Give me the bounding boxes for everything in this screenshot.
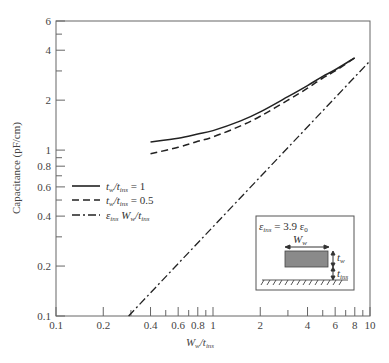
y-axis-ticks: 0.10.20.40.60.81246: [37, 15, 65, 322]
y-tick-label: 2: [46, 94, 52, 106]
x-tick-label: 8: [352, 319, 358, 331]
legend-item-dashdot: εins Ww/tins: [72, 209, 150, 223]
y-tick-label: 0.8: [37, 160, 51, 172]
series-line-solid: [151, 58, 355, 142]
y-tick-label: 4: [46, 44, 52, 56]
x-tick-label: 1: [210, 319, 216, 331]
wire-rectangle: [285, 251, 328, 267]
capacitance-chart: 0.10.20.40.60.81246810 0.10.20.40.60.812…: [0, 0, 389, 363]
x-tick-label: 0.1: [49, 319, 63, 331]
y-tick-label: 0.2: [37, 260, 51, 272]
y-axis-title: Capacitance (pF/cm): [10, 122, 23, 214]
x-tick-label: 6: [332, 319, 338, 331]
x-tick-label: 0.8: [191, 319, 205, 331]
y-tick-label: 6: [46, 15, 52, 27]
x-tick-label: 0.6: [171, 319, 185, 331]
x-axis-ticks: 0.10.20.40.60.81246810: [49, 307, 376, 331]
legend-item-solid: tw/tins = 1: [72, 180, 145, 194]
y-tick-label: 0.1: [37, 310, 51, 322]
legend-label-dashdot: εins Ww/tins: [106, 209, 150, 223]
x-tick-label: 4: [305, 319, 311, 331]
y-tick-label: 0.6: [37, 181, 51, 193]
series-line-dashed: [151, 58, 355, 154]
y-tick-label: 0.4: [37, 210, 51, 222]
inset-cross-section: εins = 3.9 ε0 Ww tw tins: [256, 216, 354, 290]
x-tick-label: 2: [258, 319, 264, 331]
x-tick-label: 0.4: [144, 319, 158, 331]
legend: tw/tins = 1 tw/tins = 0.5 εins Ww/tins: [72, 180, 154, 223]
legend-label-solid: tw/tins = 1: [106, 180, 145, 194]
x-axis-title: Ww/tins: [186, 336, 214, 350]
x-tick-label: 10: [365, 319, 377, 331]
legend-item-dashed: tw/tins = 0.5: [72, 194, 154, 208]
legend-label-dashed: tw/tins = 0.5: [106, 194, 154, 208]
y-tick-label: 1: [46, 144, 52, 156]
x-tick-label: 0.2: [96, 319, 110, 331]
